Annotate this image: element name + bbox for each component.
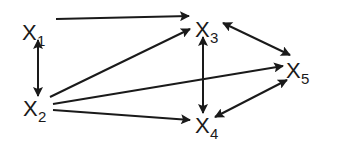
node-label-x2: X [23, 96, 38, 121]
node-subscript-x2: 2 [38, 108, 46, 125]
node-subscript-x3: 3 [210, 29, 218, 46]
node-x2: X2 [23, 96, 46, 125]
node-subscript-x4: 4 [210, 125, 218, 142]
node-x5: X5 [286, 58, 309, 87]
node-label-x3: X [195, 17, 210, 42]
edge-x1-x3-arrow [56, 16, 189, 19]
node-label-x1: X [22, 20, 37, 45]
edge-x4-x5-bidirectional-arrow [215, 80, 287, 117]
node-x1: X1 [22, 20, 45, 49]
edge-x3-x5-bidirectional-arrow [223, 23, 290, 55]
node-label-x5: X [286, 58, 301, 83]
edge-x2-x3-arrow [50, 29, 190, 97]
node-subscript-x1: 1 [37, 32, 45, 49]
causal-graph-diagram: X1X2X3X4X5 [0, 0, 347, 153]
edges-group [38, 16, 290, 120]
nodes-group: X1X2X3X4X5 [22, 17, 309, 142]
edge-x2-x5-arrow [53, 66, 283, 104]
node-x4: X4 [195, 113, 218, 142]
edge-x2-x4-arrow [53, 110, 190, 120]
node-subscript-x5: 5 [301, 70, 309, 87]
node-label-x4: X [195, 113, 210, 138]
node-x3: X3 [195, 17, 218, 46]
